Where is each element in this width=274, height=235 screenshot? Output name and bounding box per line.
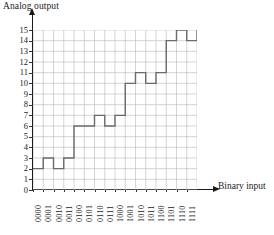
staircase-plot-svg (33, 30, 197, 190)
y-axis-tick-label: 6 (6, 121, 28, 131)
x-axis-tick-label: 0000 (34, 192, 43, 222)
dac-transfer-chart: Analog output 1514131211109876543210 000… (0, 0, 274, 235)
x-axis-title: Binary input (218, 181, 266, 191)
x-axis-tick-label: 1000 (116, 192, 125, 222)
y-axis-tick-label: 4 (6, 142, 28, 152)
x-axis-tick-label: 0111 (106, 192, 115, 222)
x-axis-tick-label: 0011 (65, 192, 74, 222)
y-axis-tick-label: 10 (6, 78, 28, 88)
x-axis-tick-label: 1111 (188, 192, 197, 222)
y-axis-tick-label: 12 (6, 57, 28, 67)
y-axis-tick-label: 14 (6, 35, 28, 45)
y-axis-tick-label: 11 (6, 67, 28, 77)
plot-area (33, 30, 197, 190)
x-axis-tick-label: 0001 (44, 192, 53, 222)
y-axis-tick-label: 2 (6, 163, 28, 173)
y-axis-tick-label: 9 (6, 89, 28, 99)
x-axis-tick-label: 1010 (137, 192, 146, 222)
x-axis-tick-label: 1110 (178, 192, 187, 222)
y-axis-tick-label: 7 (6, 110, 28, 120)
grid-lines (33, 30, 197, 190)
x-axis-tick-label: 0101 (85, 192, 94, 222)
y-axis-tick-label: 5 (6, 131, 28, 141)
x-axis-tick-label: 1100 (157, 192, 166, 222)
x-axis-tick-label: 0100 (75, 192, 84, 222)
x-axis-tick-label: 0110 (96, 192, 105, 222)
x-axis-tick-label: 1011 (147, 192, 156, 222)
y-axis-tick-label: 13 (6, 46, 28, 56)
y-axis-tick-label: 8 (6, 99, 28, 109)
y-axis-tick-label: 0 (6, 185, 28, 195)
x-axis-tick-label: 1101 (167, 192, 176, 222)
y-axis-tick-label: 15 (6, 25, 28, 35)
x-axis-tick-label: 0010 (55, 192, 64, 222)
x-axis-tick-label: 1001 (126, 192, 135, 222)
y-axis-tick-label: 3 (6, 153, 28, 163)
y-axis-tick-label: 1 (6, 174, 28, 184)
